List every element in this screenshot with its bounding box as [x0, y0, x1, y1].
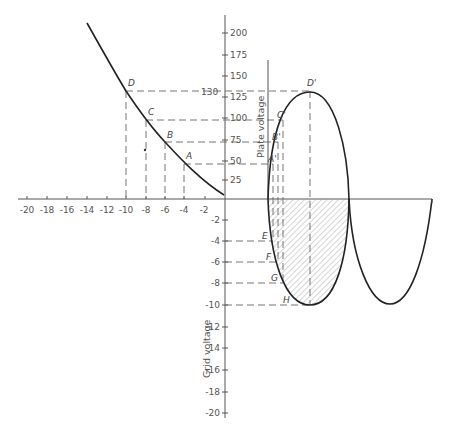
y-tick-label: -18 [205, 387, 220, 397]
x-tick-label: -12 [100, 205, 115, 215]
transfer-characteristic-diagram: -20 -18 -16 -14 -12 -10 -8 -6 -4 -2 200 … [0, 0, 449, 445]
x-tick-label: -2 [200, 205, 209, 215]
y-positive-tick-labels: 200 175 150 125 100 75 50 25 [230, 28, 247, 185]
diagram-stage: -20 -18 -16 -14 -12 -10 -8 -6 -4 -2 200 … [0, 0, 449, 445]
point-label-d: D [128, 78, 135, 88]
plate-voltage-axis-title: Plate voltage [255, 96, 266, 158]
y-tick-label: -10 [205, 300, 220, 310]
y-tick-label: 150 [230, 71, 247, 81]
point-label-g: G [271, 273, 278, 283]
point-label-b: B [167, 130, 173, 140]
point-label-d-prime: D' [307, 78, 316, 88]
y-tick-label: -20 [205, 408, 220, 418]
x-tick-label: -14 [80, 205, 95, 215]
y-tick-label: 100 [230, 113, 247, 123]
point-label-f: F [266, 252, 272, 262]
y-tick-label: 25 [230, 175, 241, 185]
point-label-a: A [185, 151, 192, 161]
value-130-label: 130 [201, 87, 218, 97]
point-label-e: E [262, 231, 268, 241]
x-tick-label: -8 [142, 205, 151, 215]
point-label-c: C [148, 107, 155, 117]
y-negative-tick-labels: -2 -4 -6 -8 -10 -12 -14 -16 -18 -20 [205, 215, 220, 418]
second-half-cycle-wave [349, 199, 432, 304]
x-tick-label: -10 [119, 205, 134, 215]
y-tick-label: 200 [230, 28, 247, 38]
point-label-b-prime: B' [272, 132, 281, 142]
x-axis-tick-labels: -20 -18 -16 -14 -12 -10 -8 -6 -4 -2 [20, 205, 209, 215]
stray-dot [144, 149, 146, 151]
y-tick-label: 75 [230, 135, 241, 145]
hatched-input-region [268, 199, 349, 305]
plate-voltage-wave [268, 92, 349, 199]
y-tick-label: 175 [230, 50, 247, 60]
y-tick-label: -4 [211, 236, 220, 246]
y-tick-label: -2 [211, 215, 220, 225]
x-tick-label: -4 [180, 205, 189, 215]
characteristic-curve [87, 23, 224, 195]
x-tick-label: -18 [40, 205, 55, 215]
x-tick-label: -6 [161, 205, 170, 215]
y-tick-label: -8 [211, 278, 220, 288]
point-label-a-prime: A' [267, 154, 277, 164]
point-label-h: H [283, 295, 290, 305]
point-label-c-prime: C' [277, 110, 286, 120]
grid-voltage-axis-title: Grid voltage [201, 319, 212, 378]
x-tick-label: -16 [60, 205, 75, 215]
y-tick-label: 50 [230, 156, 242, 166]
y-tick-label: -6 [211, 257, 220, 267]
y-tick-label: 125 [230, 92, 247, 102]
x-tick-label: -20 [20, 205, 35, 215]
